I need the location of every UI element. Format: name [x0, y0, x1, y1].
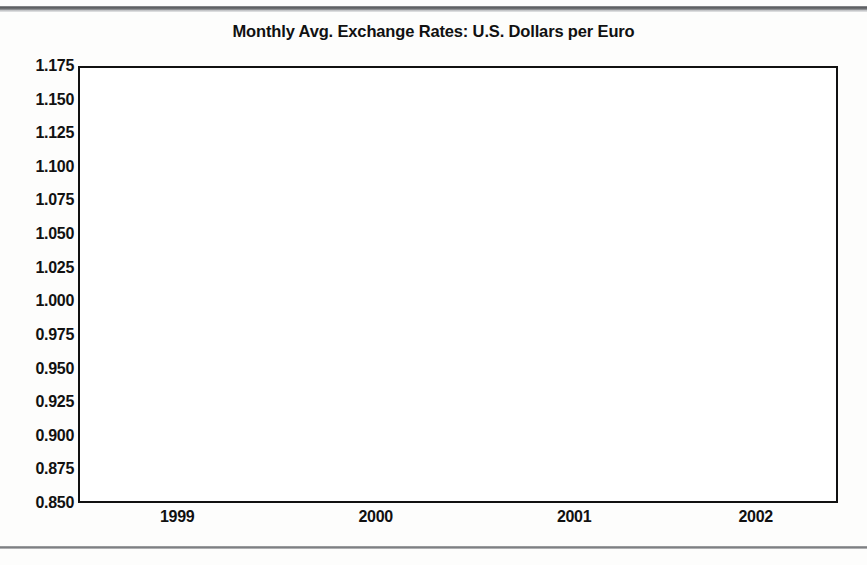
y-tick-1-175: 1.175: [4, 57, 74, 75]
x-tick-1999: 1999: [160, 508, 194, 526]
x-tick-2000: 2000: [358, 508, 392, 526]
page-rule-top-shadow: [0, 10, 867, 12]
chart-title: Monthly Avg. Exchange Rates: U.S. Dollar…: [0, 22, 867, 41]
scanned-page: Monthly Avg. Exchange Rates: U.S. Dollar…: [0, 0, 867, 565]
y-tick-0-850: 0.850: [4, 494, 74, 512]
plot-border: [78, 66, 838, 503]
page-rule-bottom: [0, 546, 867, 549]
y-tick-0-900: 0.900: [4, 427, 74, 445]
y-tick-0-950: 0.950: [4, 360, 74, 378]
y-tick-1-100: 1.100: [4, 158, 74, 176]
y-tick-1-050: 1.050: [4, 225, 74, 243]
y-tick-0-925: 0.925: [4, 393, 74, 411]
x-tick-2001: 2001: [557, 508, 591, 526]
y-tick-1-075: 1.075: [4, 191, 74, 209]
x-tick-2002: 2002: [738, 508, 772, 526]
y-tick-0-875: 0.875: [4, 460, 74, 478]
y-axis-tick-labels: 1.1751.1501.1251.1001.0751.0501.0251.000…: [0, 66, 74, 503]
y-tick-1-150: 1.150: [4, 91, 74, 109]
y-tick-1-025: 1.025: [4, 259, 74, 277]
x-axis-tick-labels: 1999200020012002: [78, 508, 838, 538]
y-tick-0-975: 0.975: [4, 326, 74, 344]
plot-area: [78, 66, 838, 503]
y-tick-1-125: 1.125: [4, 124, 74, 142]
y-tick-1-000: 1.000: [4, 292, 74, 310]
